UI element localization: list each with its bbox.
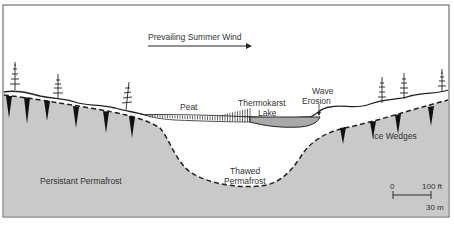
lake-label-line2: Lake (258, 108, 277, 118)
peat-label: Peat (180, 102, 198, 112)
ice-wedges-label: Ice Wedges (372, 131, 417, 141)
thawed-label-line2: Permafrost (224, 176, 266, 186)
wind-label: Prevailing Summer Wind (148, 32, 242, 42)
scale-ft-label: 100 ft (422, 182, 443, 191)
persistent-permafrost-label: Persistant Permafrost (40, 176, 122, 186)
scale-start-label: 0 (390, 182, 395, 191)
thermokarst-diagram: Prevailing Summer Wind Peat Thermokarst … (0, 0, 454, 225)
thawed-label-line1: Thawed (230, 166, 261, 176)
wave-label-line2: Erosion (302, 96, 331, 106)
scale-m-label: 30 m (426, 203, 444, 212)
wave-label-line1: Wave (312, 86, 334, 96)
lake-label-line1: Thermokarst (238, 98, 286, 108)
